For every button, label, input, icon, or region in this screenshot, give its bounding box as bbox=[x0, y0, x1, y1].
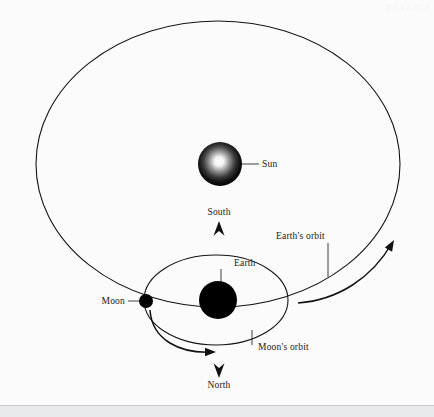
south-arrow-icon bbox=[214, 221, 225, 236]
north-arrow-icon bbox=[214, 363, 225, 378]
earth-body bbox=[199, 281, 237, 319]
earth-revolution-arrowhead bbox=[385, 240, 394, 252]
north-label: North bbox=[207, 380, 230, 390]
earth-label: Earth bbox=[234, 258, 256, 268]
earth-revolution-arrow bbox=[298, 243, 392, 303]
sun-label: Sun bbox=[262, 159, 277, 169]
orbit-diagram: Sun Earth Moon Earth's orbit Moon's orbi… bbox=[0, 0, 434, 417]
moon-label: Moon bbox=[102, 296, 126, 306]
sun-body bbox=[198, 142, 242, 186]
diagram-canvas: Sun Earth Moon Earth's orbit Moon's orbi… bbox=[0, 0, 434, 417]
corner-watermark: PHYSICS bbox=[386, 2, 430, 12]
earth-orbit-label: Earth's orbit bbox=[276, 231, 325, 241]
south-label: South bbox=[207, 207, 230, 217]
moon-body bbox=[139, 294, 153, 308]
moon-revolution-arrow bbox=[150, 310, 213, 352]
page-footer-band bbox=[0, 406, 434, 417]
moon-orbit-label: Moon's orbit bbox=[258, 342, 309, 352]
moon-revolution-arrowhead bbox=[205, 348, 216, 356]
